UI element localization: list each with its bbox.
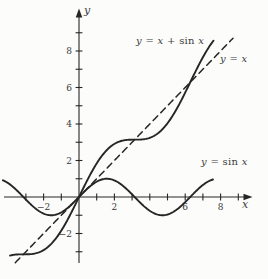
function-graph-figure: −2268−22468 y = x + sin x y = x y = sin … <box>0 0 268 279</box>
y-tick-label: 8 <box>66 46 72 56</box>
y-axis-label: y <box>84 4 91 17</box>
curve-x_plus_sin_x <box>10 41 214 256</box>
x-tick-label: 2 <box>112 202 118 212</box>
curve-label-text: x <box>195 35 204 46</box>
x-tick-label: 8 <box>218 202 224 212</box>
curve-label-text: y = x <box>220 53 248 64</box>
y-tick-label: 6 <box>66 83 72 93</box>
curve-label-text: sin <box>223 156 239 167</box>
curve-label-y-equals-sin-x: y = sin x <box>201 156 248 167</box>
curve-label-y-equals-x: y = x <box>220 53 248 64</box>
y-tick-label: 4 <box>66 119 72 129</box>
plot-canvas: −2268−22468 <box>0 0 268 279</box>
curve-label-text: sin <box>179 35 195 46</box>
curve-identity <box>15 38 233 262</box>
curve-label-y-equals-x-plus-sin-x: y = x + sin x <box>136 35 204 46</box>
curve-label-text: y = x + <box>136 35 179 46</box>
y-axis-arrow-icon <box>76 9 83 18</box>
y-tick-label: 2 <box>66 156 72 166</box>
x-axis-label: x <box>242 198 249 211</box>
curve-label-text: y = <box>201 156 223 167</box>
curve-label-text: x <box>238 156 247 167</box>
